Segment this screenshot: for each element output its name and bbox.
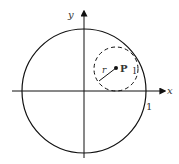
point-p-label: P (120, 63, 128, 74)
side-l-label: l (133, 65, 136, 76)
unit-circle-diagram: P r l x y 1 (0, 0, 179, 164)
point-p-dot (114, 66, 118, 70)
radius-r-label: r (102, 65, 107, 75)
unit-radius-label: 1 (146, 101, 152, 112)
x-axis-label: x (167, 85, 173, 96)
y-axis-label: y (67, 9, 74, 20)
